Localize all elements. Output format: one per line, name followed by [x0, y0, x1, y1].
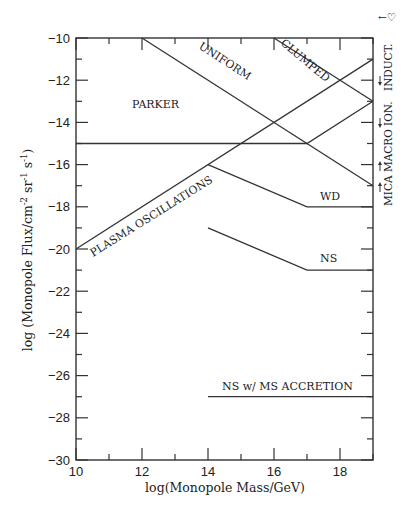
y-tick-label: −14: [48, 115, 70, 130]
y-tick-label: −26: [48, 368, 70, 383]
label-induct: INDUCT.: [382, 44, 394, 91]
x-axis-label: log(Monopole Mass/GeV): [145, 480, 305, 495]
series-parker: [76, 101, 373, 143]
y-tick-label: −18: [48, 199, 70, 214]
x-tick-label: 14: [201, 464, 215, 479]
monopole-flux-chart: 1012141618−10−12−14−16−18−20−22−24−26−28…: [0, 0, 414, 509]
y-tick-label: −24: [48, 326, 70, 341]
label-uniform: UNIFORM: [196, 40, 253, 83]
y-tick-label: −20: [48, 242, 70, 257]
series-uniform: [142, 38, 373, 186]
x-tick-label: 18: [333, 464, 347, 479]
series-ns: [208, 228, 373, 270]
label-clumped: CLUMPED: [278, 36, 332, 85]
y-axis-label: log (Monopole Flux/cm-2 sr-1 s-1): [19, 149, 35, 352]
y-tick-label: −28: [48, 410, 70, 425]
corner-symbol-icon: ←♡: [378, 11, 396, 23]
label-macro: MACRO: [382, 129, 394, 172]
series-wd: [208, 165, 373, 207]
y-tick-label: −22: [48, 284, 70, 299]
x-tick-label: 10: [69, 464, 83, 479]
series-plasma-oscillations: [76, 59, 373, 249]
x-tick-label: 12: [135, 464, 149, 479]
y-tick-label: −10: [48, 31, 70, 46]
label-wd: WD: [320, 190, 340, 203]
label-ns-accretion: NS w/ MS ACCRETION: [222, 380, 353, 393]
label-plasma-oscillations: PLASMA OSCILLATIONS: [88, 173, 215, 259]
data-series: [76, 38, 373, 397]
x-tick-label: 16: [267, 464, 281, 479]
y-tick-label: −30: [48, 453, 70, 468]
label-mica: MICA: [382, 175, 394, 206]
y-tick-label: −16: [48, 157, 70, 172]
label-parker: PARKER: [132, 98, 180, 111]
y-tick-label: −12: [48, 73, 70, 88]
label-ion: ION.: [382, 101, 394, 126]
label-ns: NS: [320, 252, 337, 265]
